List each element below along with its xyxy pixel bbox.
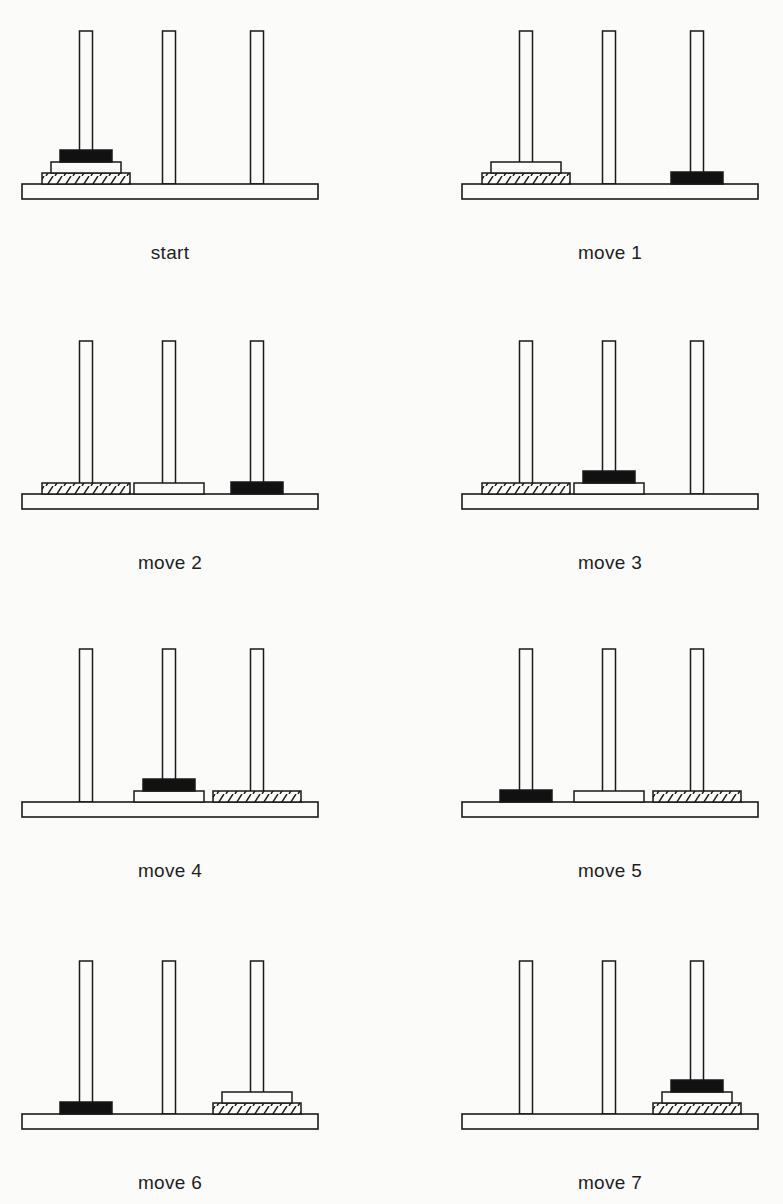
base-board	[462, 1114, 758, 1129]
tower-diagram	[0, 618, 340, 858]
disk-medium	[574, 483, 644, 494]
base-board	[462, 802, 758, 817]
disk-medium	[662, 1092, 732, 1103]
disk-large	[42, 483, 130, 494]
peg-left	[520, 649, 533, 802]
peg-left	[520, 961, 533, 1114]
base-board	[22, 1114, 318, 1129]
peg-right	[251, 961, 264, 1114]
peg-middle	[603, 31, 616, 184]
disk-medium	[51, 162, 121, 173]
disk-large	[653, 1103, 741, 1114]
peg-right	[251, 649, 264, 802]
disk-medium	[491, 162, 561, 173]
disk-small	[60, 150, 112, 162]
base-board	[22, 494, 318, 509]
peg-middle	[163, 31, 176, 184]
disk-small	[231, 482, 283, 494]
disk-small	[583, 471, 635, 483]
peg-right	[251, 31, 264, 184]
move-panel-0: start	[0, 0, 340, 300]
disk-large	[213, 1103, 301, 1114]
move-caption: move 5	[440, 860, 780, 882]
disk-large	[213, 791, 301, 802]
tower-diagram	[440, 930, 780, 1170]
tower-diagram	[440, 310, 780, 550]
disk-large	[42, 173, 130, 184]
tower-diagram	[0, 0, 340, 240]
base-board	[462, 184, 758, 199]
tower-diagram	[0, 310, 340, 550]
move-panel-5: move 5	[440, 618, 780, 918]
peg-right	[251, 341, 264, 494]
move-caption: start	[0, 242, 340, 264]
peg-left	[80, 649, 93, 802]
tower-diagram	[440, 0, 780, 240]
peg-middle	[163, 961, 176, 1114]
disk-medium	[222, 1092, 292, 1103]
disk-small	[500, 790, 552, 802]
move-caption: move 3	[440, 552, 780, 574]
move-panel-7: move 7	[440, 930, 780, 1204]
peg-left	[520, 31, 533, 184]
peg-middle	[603, 961, 616, 1114]
move-caption: move 6	[0, 1172, 340, 1194]
move-caption: move 4	[0, 860, 340, 882]
disk-small	[671, 172, 723, 184]
move-panel-2: move 2	[0, 310, 340, 610]
peg-middle	[603, 649, 616, 802]
disk-large	[482, 483, 570, 494]
base-board	[22, 184, 318, 199]
peg-left	[80, 961, 93, 1114]
disk-small	[671, 1080, 723, 1092]
peg-right	[691, 649, 704, 802]
tower-diagram	[440, 618, 780, 858]
disk-medium	[134, 483, 204, 494]
peg-right	[691, 31, 704, 184]
base-board	[22, 802, 318, 817]
disk-large	[482, 173, 570, 184]
move-panel-3: move 3	[440, 310, 780, 610]
peg-left	[80, 341, 93, 494]
move-caption: move 2	[0, 552, 340, 574]
move-panel-1: move 1	[440, 0, 780, 300]
disk-small	[60, 1102, 112, 1114]
tower-diagram	[0, 930, 340, 1170]
disk-small	[143, 779, 195, 791]
disk-large	[653, 791, 741, 802]
move-panel-4: move 4	[0, 618, 340, 918]
disk-medium	[134, 791, 204, 802]
base-board	[462, 494, 758, 509]
disk-medium	[574, 791, 644, 802]
move-caption: move 1	[440, 242, 780, 264]
move-panel-6: move 6	[0, 930, 340, 1204]
peg-left	[520, 341, 533, 494]
move-caption: move 7	[440, 1172, 780, 1194]
peg-middle	[163, 341, 176, 494]
peg-right	[691, 341, 704, 494]
